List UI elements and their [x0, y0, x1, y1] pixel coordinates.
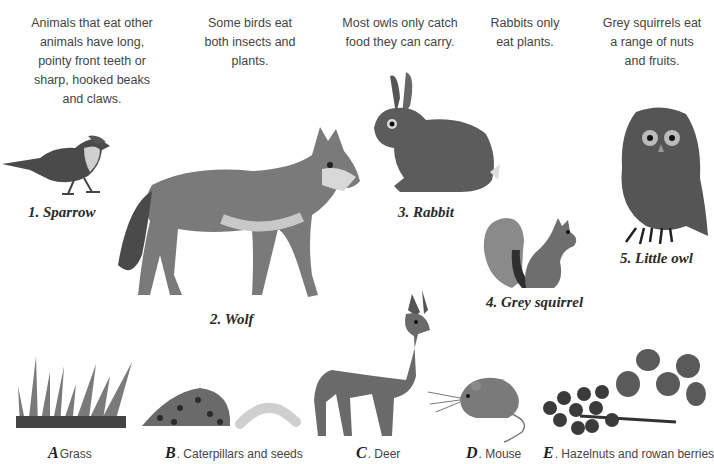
- animal-label-little-owl: 5. Little owl: [620, 250, 693, 267]
- food-letter: B: [165, 444, 176, 461]
- caption-squirrels: Grey squirrels eat a range of nuts and f…: [602, 14, 702, 71]
- food-label-grass: AGrass: [48, 444, 92, 462]
- food-name: Grass: [60, 447, 92, 461]
- food-name: . Hazelnuts and rowan berries: [555, 447, 714, 461]
- grass-illustration: [10, 356, 130, 428]
- food-label-hazelnuts-and-rowan-berries: E. Hazelnuts and rowan berries: [543, 444, 714, 462]
- food-letter: C: [356, 444, 367, 461]
- animal-label-sparrow: 1. Sparrow: [28, 204, 96, 221]
- food-name: . Mouse: [479, 447, 522, 461]
- food-label-caterpillars-and-seeds: B. Caterpillars and seeds: [165, 444, 303, 462]
- food-name: . Deer: [368, 447, 401, 461]
- food-letter: D: [466, 444, 478, 461]
- food-letter: A: [48, 444, 59, 461]
- animal-label-rabbit: 3. Rabbit: [398, 204, 454, 221]
- rabbit-illustration: [364, 72, 504, 197]
- wolf-illustration: [112, 125, 362, 305]
- food-name: . Caterpillars and seeds: [177, 447, 303, 461]
- deer-illustration: [312, 290, 422, 440]
- animal-label-grey-squirrel: 4. Grey squirrel: [486, 294, 583, 311]
- caption-carnivores: Animals that eat other animals have long…: [22, 14, 162, 109]
- animal-label-wolf: 2. Wolf: [210, 311, 254, 328]
- grey-squirrel-illustration: [482, 210, 592, 290]
- mouse-illustration: [426, 370, 532, 444]
- caption-rabbits: Rabbits only eat plants.: [490, 14, 560, 52]
- food-label-deer: C. Deer: [356, 444, 400, 462]
- food-label-mouse: D. Mouse: [466, 444, 521, 462]
- caption-birds: Some birds eat both insects and plants.: [195, 14, 305, 71]
- hazelnuts-and-rowan-berries-illustration: [540, 350, 706, 436]
- sparrow-illustration: [0, 128, 112, 198]
- food-letter: E: [543, 444, 554, 461]
- caption-owls: Most owls only catch food they can carry…: [340, 14, 460, 52]
- caterpillars-and-seeds-illustration: [140, 386, 300, 428]
- little-owl-illustration: [616, 108, 708, 248]
